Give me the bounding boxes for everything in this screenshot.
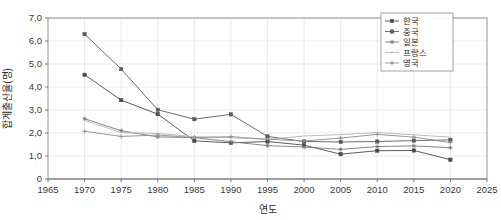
x-tick-label: 2005 — [330, 184, 351, 195]
x-tick-label: 2025 — [476, 184, 497, 195]
x-tick-label: 1985 — [184, 184, 205, 195]
legend-label: 영국 — [403, 58, 419, 68]
y-axis-title: 합계출산율(명) — [2, 68, 13, 129]
y-tick-label: 7,0 — [29, 12, 42, 23]
legend-label: 한국 — [403, 16, 419, 26]
x-tick-label: 2020 — [440, 184, 461, 195]
y-tick-label: 4,0 — [29, 81, 42, 92]
y-tick-label: 3,0 — [29, 104, 42, 115]
y-axis-ticks: 01,02,03,04,05,06,07,0 — [29, 12, 48, 184]
chart-canvas: 01,02,03,04,05,06,07,0 19651970197519801… — [0, 0, 501, 220]
chart-legend: 한국중국일본프랑스영국 — [381, 13, 453, 71]
x-tick-label: 1965 — [37, 184, 58, 195]
y-tick-label: 0 — [37, 173, 42, 184]
fertility-rate-line-chart: 01,02,03,04,05,06,07,0 19651970197519801… — [0, 0, 501, 220]
y-tick-label: 2,0 — [29, 127, 42, 138]
x-tick-label: 1990 — [220, 184, 241, 195]
x-axis-ticks: 1965197019751980198519901995200020052010… — [37, 179, 497, 195]
legend-label: 일본 — [403, 37, 419, 47]
y-tick-label: 5,0 — [29, 58, 42, 69]
x-tick-label: 2000 — [294, 184, 315, 195]
y-tick-label: 6,0 — [29, 35, 42, 46]
y-tick-label: 1,0 — [29, 150, 42, 161]
x-tick-label: 1975 — [111, 184, 132, 195]
x-tick-label: 2010 — [367, 184, 388, 195]
legend-label: 중국 — [403, 27, 419, 37]
x-tick-label: 2015 — [403, 184, 424, 195]
x-tick-label: 1980 — [147, 184, 168, 195]
x-axis-title: 연도 — [259, 204, 277, 215]
x-tick-label: 1995 — [257, 184, 278, 195]
legend-label: 프랑스 — [403, 48, 427, 58]
x-tick-label: 1970 — [74, 184, 95, 195]
